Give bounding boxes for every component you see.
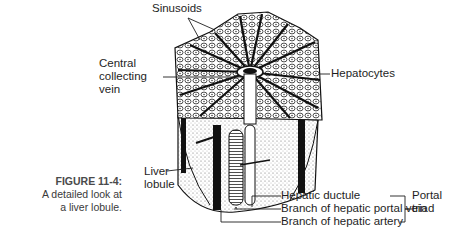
label-liver-lobule: Liver lobule (144, 165, 175, 191)
label-portal-triad-line2: triad (412, 202, 442, 215)
label-central-vein-line1: Central (99, 57, 147, 70)
label-liver-lobule-line1: Liver (144, 165, 175, 178)
label-hepatocytes: Hepatocytes (331, 67, 395, 80)
label-sinusoids: Sinusoids (152, 2, 202, 15)
label-portal-triad: Portal triad (412, 189, 442, 215)
label-central-collecting-vein: Central collecting vein (99, 57, 147, 96)
hepatic-plates (175, 12, 322, 124)
label-central-vein-line3: vein (99, 83, 147, 96)
caption-line-2: a liver lobule. (60, 201, 122, 213)
label-liver-lobule-line2: lobule (144, 178, 175, 191)
label-central-vein-line2: collecting (99, 70, 147, 83)
caption-line-1: A detailed look at (42, 188, 122, 200)
label-portal-triad-line1: Portal (412, 189, 442, 202)
figure-number: FIGURE 11-4: (0, 175, 122, 188)
label-portal-vein-branch: Branch of hepatic portal vein (281, 202, 427, 215)
figure-caption: FIGURE 11-4: A detailed look at a liver … (0, 175, 122, 214)
label-hepatic-artery-branch: Branch of hepatic artery (281, 215, 403, 228)
label-hepatic-ductule: Hepatic ductule (281, 189, 360, 202)
